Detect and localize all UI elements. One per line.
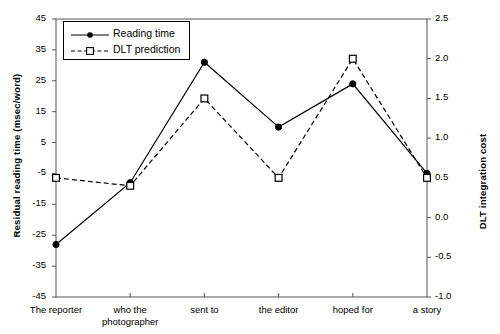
legend-entry-dlt-prediction: DLT prediction — [70, 42, 180, 56]
right-axis-title: DLT integration cost — [477, 107, 488, 257]
right-axis-tick-label: 0.5 — [435, 171, 469, 182]
series-line-dlt-prediction — [56, 59, 427, 186]
data-point-marker — [201, 59, 207, 65]
left-axis-tick-label: -35 — [16, 259, 46, 270]
left-axis-tick-label: 5 — [16, 136, 46, 147]
data-point-marker — [127, 182, 134, 189]
left-axis-tick-label: -25 — [16, 228, 46, 239]
legend-label-reading-time: Reading time — [113, 27, 175, 39]
right-axis-tick-label: -1.0 — [435, 290, 469, 301]
left-axis-title: Residual reading time (msec/word) — [11, 71, 22, 241]
x-axis-category-label-line: a story — [372, 304, 482, 316]
right-axis-tick-label: 2.5 — [435, 12, 469, 23]
x-axis-category-label: a story — [372, 304, 482, 316]
plot-frame — [56, 19, 427, 297]
left-axis-tick-label: 15 — [16, 105, 46, 116]
left-axis-tick-label: 25 — [16, 74, 46, 85]
legend-entry-reading-time: Reading time — [70, 26, 175, 40]
chart-legend: Reading time DLT prediction — [63, 21, 190, 60]
right-axis-tick-label: -0.5 — [435, 250, 469, 261]
left-axis-tick-label: 45 — [16, 12, 46, 23]
data-point-marker — [53, 174, 60, 181]
data-point-marker — [201, 95, 208, 102]
data-point-marker — [349, 55, 356, 62]
chart-figure: Residual reading time (msec/word) DLT in… — [0, 0, 500, 334]
data-point-marker — [276, 124, 282, 130]
left-axis-tick-label: -15 — [16, 197, 46, 208]
left-axis-tick-label: 35 — [16, 43, 46, 54]
right-axis-tick-label: 1.5 — [435, 91, 469, 102]
left-axis-tick-label: -5 — [16, 166, 46, 177]
right-axis-tick-label: 0.0 — [435, 211, 469, 222]
data-point-marker — [350, 81, 356, 87]
data-point-marker — [275, 174, 282, 181]
right-axis-tick-label: 2.0 — [435, 52, 469, 63]
left-axis-tick-label: -45 — [16, 290, 46, 301]
legend-sample-dashed-square-icon — [70, 43, 110, 55]
legend-label-dlt-prediction: DLT prediction — [113, 43, 180, 55]
legend-sample-solid-circle-icon — [70, 27, 110, 39]
data-point-marker — [424, 174, 431, 181]
data-point-marker — [53, 241, 59, 247]
right-axis-tick-label: 1.0 — [435, 131, 469, 142]
x-axis-category-label-line: photographer — [75, 316, 185, 328]
